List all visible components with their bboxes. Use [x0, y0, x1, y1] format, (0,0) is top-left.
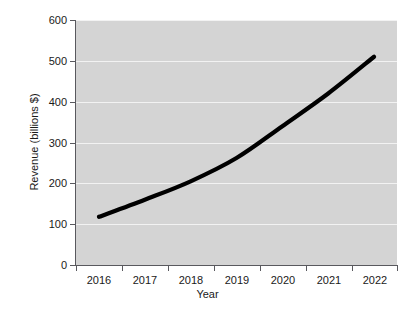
revenue-line-series — [99, 57, 374, 217]
chart-figure: 600 500 400 300 200 100 0 2016 2017 2018… — [0, 0, 415, 313]
data-layer — [0, 0, 415, 313]
